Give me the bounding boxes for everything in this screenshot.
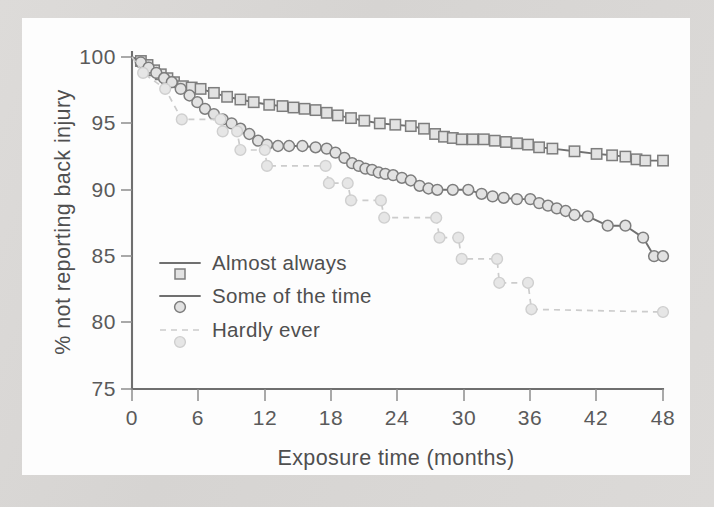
data-point-marker bbox=[259, 145, 270, 156]
data-point-marker bbox=[569, 146, 579, 156]
data-point-marker bbox=[299, 104, 309, 114]
data-point-marker bbox=[232, 126, 243, 137]
legend-marker-circle-faint-icon bbox=[175, 337, 186, 348]
data-point-marker bbox=[320, 161, 331, 172]
data-point-marker bbox=[176, 114, 187, 125]
data-point-marker bbox=[494, 277, 505, 288]
data-point-marker bbox=[431, 212, 442, 223]
data-point-marker bbox=[195, 84, 205, 94]
data-point-marker bbox=[607, 150, 617, 160]
data-point-marker bbox=[264, 100, 274, 110]
y-tick-label-100: 100 bbox=[79, 45, 116, 68]
data-point-marker bbox=[523, 277, 534, 288]
x-tick-label-12: 12 bbox=[253, 406, 278, 429]
data-point-marker bbox=[277, 101, 287, 111]
x-tick-label-24: 24 bbox=[385, 406, 410, 429]
x-tick-label-18: 18 bbox=[319, 406, 344, 429]
legend-item-hardly-ever[interactable]: Hardly ever bbox=[160, 318, 320, 347]
data-point-marker bbox=[235, 145, 246, 156]
data-point-marker bbox=[602, 220, 613, 231]
legend-marker-circle-icon bbox=[175, 302, 186, 313]
legend-label-3: Hardly ever bbox=[212, 318, 320, 341]
data-point-marker bbox=[534, 142, 544, 152]
x-tick-label-30: 30 bbox=[452, 406, 477, 429]
x-tick-label-42: 42 bbox=[584, 406, 609, 429]
data-point-marker bbox=[346, 113, 356, 123]
data-point-marker bbox=[523, 139, 533, 149]
data-point-marker bbox=[322, 108, 332, 118]
data-point-marker bbox=[359, 116, 369, 126]
data-point-marker bbox=[284, 141, 295, 152]
data-point-marker bbox=[390, 120, 400, 130]
data-point-marker bbox=[490, 136, 500, 146]
y-tick-label-75: 75 bbox=[91, 377, 116, 400]
data-point-marker bbox=[333, 110, 343, 120]
data-point-marker bbox=[463, 184, 474, 195]
data-point-marker bbox=[501, 137, 511, 147]
y-tick-label-90: 90 bbox=[91, 178, 116, 201]
data-point-marker bbox=[487, 191, 498, 202]
data-point-marker bbox=[310, 105, 320, 115]
data-point-marker bbox=[434, 232, 445, 243]
data-point-marker bbox=[379, 212, 390, 223]
data-point-marker bbox=[217, 126, 228, 137]
data-point-marker bbox=[476, 188, 487, 199]
data-point-marker bbox=[453, 232, 464, 243]
data-point-marker bbox=[324, 178, 335, 189]
data-point-marker bbox=[526, 304, 537, 315]
data-point-marker bbox=[640, 155, 650, 165]
data-point-marker bbox=[273, 141, 284, 152]
data-point-marker bbox=[215, 114, 226, 125]
data-point-marker bbox=[658, 251, 669, 262]
survival-chart: 100 95 90 85 80 75 0 6 12 18 24 30 36 42 bbox=[0, 0, 714, 507]
data-point-marker bbox=[591, 149, 601, 159]
x-axis-title: Exposure time (months) bbox=[277, 446, 514, 470]
data-point-marker bbox=[376, 195, 387, 206]
data-point-marker bbox=[262, 161, 273, 172]
data-point-marker bbox=[456, 254, 467, 265]
data-point-marker bbox=[457, 134, 467, 144]
x-axis-ticks: 0 6 12 18 24 30 36 42 48 bbox=[126, 389, 675, 429]
x-tick-label-36: 36 bbox=[518, 406, 543, 429]
x-tick-label-6: 6 bbox=[192, 406, 204, 429]
data-point-marker bbox=[658, 155, 668, 165]
data-point-marker bbox=[620, 220, 631, 231]
series-line bbox=[132, 57, 663, 256]
data-point-marker bbox=[419, 124, 429, 134]
data-point-marker bbox=[209, 88, 219, 98]
data-point-marker bbox=[498, 192, 509, 203]
data-point-marker bbox=[346, 195, 357, 206]
data-point-marker bbox=[297, 141, 308, 152]
figure-page: 100 95 90 85 80 75 0 6 12 18 24 30 36 42 bbox=[0, 0, 714, 507]
data-point-marker bbox=[288, 102, 298, 112]
data-point-marker bbox=[447, 184, 458, 195]
legend-label-2: Some of the time bbox=[212, 284, 372, 307]
data-point-marker bbox=[310, 142, 321, 153]
series-layer bbox=[132, 56, 668, 318]
y-axis-title: % not reporting back injury bbox=[51, 89, 75, 354]
x-tick-label-0: 0 bbox=[126, 406, 138, 429]
y-tick-label-85: 85 bbox=[91, 244, 116, 267]
legend-label-1: Almost always bbox=[212, 251, 347, 274]
data-point-marker bbox=[512, 194, 523, 205]
legend-item-some-of-the-time[interactable]: Some of the time bbox=[160, 284, 372, 312]
data-point-marker bbox=[492, 254, 503, 265]
x-tick-label-48: 48 bbox=[651, 406, 676, 429]
data-point-marker bbox=[638, 232, 649, 243]
y-axis-ticks: 100 95 90 85 80 75 bbox=[79, 45, 132, 400]
data-point-marker bbox=[468, 134, 478, 144]
y-tick-label-95: 95 bbox=[91, 111, 116, 134]
legend: Almost always Some of the time Hardly ev… bbox=[160, 251, 372, 347]
legend-marker-square-icon bbox=[175, 269, 185, 279]
data-point-marker bbox=[160, 84, 171, 95]
data-point-marker bbox=[249, 97, 259, 107]
data-point-marker bbox=[479, 134, 489, 144]
data-point-marker bbox=[222, 92, 232, 102]
data-point-marker bbox=[138, 68, 149, 79]
data-point-marker bbox=[235, 94, 245, 104]
data-point-marker bbox=[658, 307, 669, 318]
data-point-marker bbox=[582, 211, 593, 222]
data-point-marker bbox=[512, 138, 522, 148]
y-tick-label-80: 80 bbox=[91, 310, 116, 333]
legend-item-almost-always[interactable]: Almost always bbox=[160, 251, 347, 279]
